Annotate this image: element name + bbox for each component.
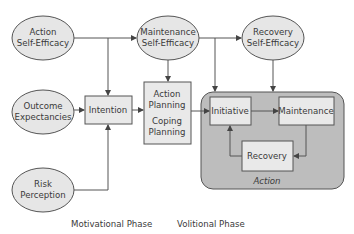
label-line: Action [148, 89, 185, 100]
outcome-expectancies-label: Outcome Expectancies [15, 101, 72, 123]
maintenance-label: Maintenance [278, 106, 333, 117]
label-line: Self-Efficacy [17, 38, 69, 49]
volitional-phase-label: Volitional Phase [177, 219, 245, 229]
initiative-label: Initiative [211, 106, 249, 117]
recovery-label: Recovery [247, 151, 287, 162]
label-line: Outcome [15, 101, 72, 112]
label-line: Perception [20, 190, 65, 201]
recovery-self-efficacy-label: Recovery Self-Efficacy [247, 27, 299, 49]
risk-perception-label: Risk Perception [20, 179, 65, 201]
label-line: Coping [148, 116, 185, 127]
intention-label: Intention [89, 105, 128, 116]
motivational-phase-label: Motivational Phase [71, 219, 152, 229]
label-line: Planning [148, 127, 185, 138]
label-line: Self-Efficacy [247, 38, 299, 49]
edge-rp-to-intention [74, 125, 108, 190]
label-line: Expectancies [15, 112, 72, 123]
maintenance-self-efficacy-label: Maintenance Self-Efficacy [140, 27, 195, 49]
planning-label: Action Planning Coping Planning [148, 89, 185, 138]
label-line: Self-Efficacy [140, 38, 195, 49]
label-line: Recovery [247, 27, 299, 38]
label-line: Maintenance [140, 27, 195, 38]
label-line: Risk [20, 179, 65, 190]
action-self-efficacy-label: Action Self-Efficacy [17, 27, 69, 49]
label-line: Action [17, 27, 69, 38]
action-group-label: Action [253, 176, 280, 187]
label-line: Planning [148, 100, 185, 111]
